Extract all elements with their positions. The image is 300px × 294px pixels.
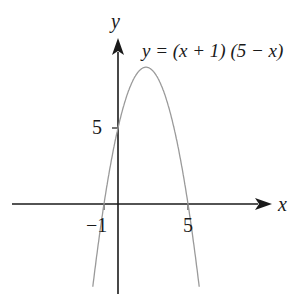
tick-label-x-5: 5 (183, 214, 193, 237)
graph-figure: y y = (x + 1) (5 − x) x 5 −1 5 (0, 0, 300, 294)
x-axis-label: x (278, 193, 287, 216)
tick-label-y-5: 5 (92, 116, 102, 139)
equation-label: y = (x + 1) (5 − x) (142, 40, 283, 62)
tick-label-x-neg1: −1 (86, 214, 107, 237)
parabola-curve (93, 67, 199, 287)
y-axis-label: y (111, 10, 120, 33)
